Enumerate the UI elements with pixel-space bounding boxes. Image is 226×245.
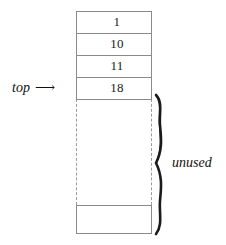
array-rule-bottom-cell	[76, 205, 152, 206]
right-arrow-icon: ⟶	[35, 81, 55, 95]
stack-array-diagram: 1 10 11 18 top ⟶ unused	[0, 0, 226, 245]
array-rule-bottom	[76, 233, 152, 234]
array-cell-value-2: 11	[76, 55, 152, 77]
array-rule-top-of-stack	[76, 99, 152, 100]
array-cell-value-1: 10	[76, 33, 152, 55]
array-cell-value-3: 18	[76, 77, 152, 99]
unused-label: unused	[172, 155, 212, 171]
array-left-border-bottom	[76, 205, 77, 234]
array-left-border-dashed	[76, 99, 77, 205]
array-box: 1 10 11 18	[76, 11, 152, 234]
top-pointer: top ⟶	[12, 80, 55, 96]
unused-brace-icon	[152, 93, 174, 236]
array-cell-value-0: 1	[76, 11, 152, 33]
top-pointer-label: top	[12, 80, 30, 96]
